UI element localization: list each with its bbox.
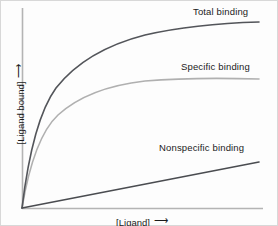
curve-label-total-binding: Total binding (193, 6, 248, 17)
curve-label-nonspecific-binding: Nonspecific binding (159, 142, 244, 153)
y-axis-title: [Ligand bound] (15, 82, 26, 145)
curve-nonspecific-binding (22, 162, 259, 208)
binding-curve-figure: Total binding Specific binding Nonspecif… (0, 0, 278, 226)
x-axis-title-group: [Ligand]⟶ (22, 212, 262, 226)
y-axis-title-group: [Ligand bound]⟶ (10, 39, 28, 169)
x-axis-title: [Ligand] (116, 217, 150, 226)
curve-label-specific-binding: Specific binding (181, 61, 250, 72)
x-axis-arrow-icon: ⟶ (154, 215, 168, 226)
y-axis-arrow-icon: ⟶ (13, 64, 24, 78)
plot-canvas (0, 0, 278, 226)
